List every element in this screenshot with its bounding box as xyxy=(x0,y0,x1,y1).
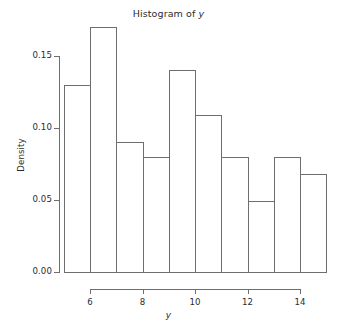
y-axis-tick xyxy=(54,128,59,129)
histogram-bar xyxy=(221,157,248,273)
histogram-bar xyxy=(274,157,301,273)
x-axis-tick xyxy=(248,289,249,294)
x-axis-title: y xyxy=(0,310,337,320)
x-axis-tick-label: 8 xyxy=(123,297,163,307)
y-axis-line xyxy=(59,56,60,273)
x-axis-tick xyxy=(90,289,91,294)
x-axis-tick-label: 14 xyxy=(280,297,320,307)
x-axis-tick-label: 10 xyxy=(175,297,215,307)
histogram-bar xyxy=(143,157,170,273)
histogram-bar xyxy=(116,142,143,273)
y-axis-tick-label: 0.10 xyxy=(32,122,52,132)
x-axis-tick-label: 6 xyxy=(70,297,110,307)
y-axis-tick-label: 0.00 xyxy=(32,266,52,276)
histogram-bar xyxy=(248,201,275,273)
histogram-bar xyxy=(64,85,91,273)
histogram-bars xyxy=(0,0,337,326)
x-axis-tick-label: 12 xyxy=(228,297,268,307)
plot-area: 0.000.050.100.15 Density 68101214 y xyxy=(0,0,337,326)
y-axis-tick xyxy=(54,56,59,57)
histogram-bar xyxy=(300,174,327,273)
histogram-bar xyxy=(195,115,222,273)
y-axis-title: Density xyxy=(16,125,26,185)
histogram-figure: Histogram of y 0.000.050.100.15 Density … xyxy=(0,0,337,326)
histogram-bar xyxy=(90,27,117,273)
x-axis-tick xyxy=(143,289,144,294)
x-axis-tick xyxy=(195,289,196,294)
histogram-bar xyxy=(169,70,196,273)
y-axis-tick-label: 0.15 xyxy=(32,50,52,60)
x-axis-tick xyxy=(300,289,301,294)
y-axis-tick xyxy=(54,200,59,201)
y-axis-tick xyxy=(54,272,59,273)
y-axis-tick-label: 0.05 xyxy=(32,194,52,204)
